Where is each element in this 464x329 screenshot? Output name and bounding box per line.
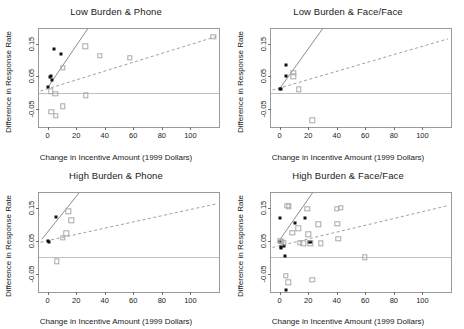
y-tick-label: 0.15 (258, 195, 268, 221)
data-point (293, 221, 296, 224)
y-tick-label: 0.15 (26, 31, 36, 57)
y-tick-label-text: 0.05 (259, 234, 268, 249)
y-tick-label-text: 0.15 (259, 201, 268, 216)
solid-fit (280, 29, 323, 89)
x-tick-label: 0 (277, 296, 281, 305)
y-tick-label-text: 0.05 (27, 69, 36, 84)
x-tick-mark (337, 292, 338, 295)
y-axis-label: Difference in Response Rate (2, 0, 14, 164)
y-tick-label: 0.05 (258, 63, 268, 89)
x-axis-label: Change in Incentive Amount (1999 Dollars… (0, 317, 232, 326)
fit-lines-layer (271, 29, 451, 127)
data-point (305, 232, 310, 237)
x-tick-label: 80 (390, 296, 398, 305)
x-tick-mark (76, 292, 77, 295)
y-axis-label-text: Difference in Response Rate (4, 195, 13, 297)
data-point (60, 104, 65, 109)
x-tick-mark (280, 127, 281, 130)
x-axis-label: Change in Incentive Amount (1999 Dollars… (232, 153, 464, 162)
y-tick-label: 0.05 (258, 228, 268, 254)
y-tick-label-text: 0.15 (27, 201, 36, 216)
x-tick-label: 60 (129, 296, 137, 305)
x-tick-mark (133, 127, 134, 130)
chart-panel: High Burden & Face/FaceDifference in Res… (232, 164, 464, 328)
data-point (68, 218, 73, 223)
data-point (53, 113, 58, 118)
x-tick-label: 100 (184, 296, 197, 305)
panel-title: Low Burden & Phone (0, 6, 232, 17)
x-tick-mark (365, 292, 366, 295)
data-point (63, 231, 68, 236)
plot-area: 0.150.05-0.05020406080100 (38, 28, 220, 128)
panel-title: High Burden & Face/Face (232, 170, 464, 181)
x-tick-label: 80 (390, 131, 398, 140)
x-tick-mark (337, 127, 338, 130)
y-tick-label: -0.05 (26, 96, 36, 122)
data-point (290, 230, 295, 235)
y-axis-label: Difference in Response Rate (2, 164, 14, 328)
y-axis-label: Difference in Response Rate (234, 164, 246, 328)
x-tick-mark (308, 127, 309, 130)
data-point (310, 118, 315, 123)
data-point (53, 47, 56, 50)
y-tick-label-text: 0.15 (27, 36, 36, 51)
x-tick-label: 40 (333, 131, 341, 140)
chart-panel: High Burden & PhoneDifference in Respons… (0, 164, 232, 328)
data-point (279, 216, 282, 219)
y-tick-label-text: -0.05 (27, 265, 36, 282)
data-point (83, 44, 88, 49)
data-point (308, 241, 313, 246)
x-tick-label: 20 (304, 296, 312, 305)
data-point (54, 259, 59, 264)
y-tick-label-text: -0.05 (259, 100, 268, 117)
data-point (280, 88, 283, 91)
data-point (60, 65, 65, 70)
x-tick-label: 40 (101, 131, 109, 140)
data-point (53, 91, 58, 96)
data-point (291, 74, 296, 79)
data-point (66, 208, 71, 213)
x-axis-label: Change in Incentive Amount (1999 Dollars… (0, 153, 232, 162)
plot-area: 0.150.05-0.05020406080100 (270, 28, 452, 128)
x-tick-label: 60 (129, 131, 137, 140)
data-point (335, 236, 340, 241)
x-tick-label: 100 (184, 131, 197, 140)
x-tick-mark (76, 127, 77, 130)
data-point (127, 55, 132, 60)
y-axis-label-text: Difference in Response Rate (4, 31, 13, 133)
y-tick-label-text: 0.05 (27, 234, 36, 249)
fit-lines-layer (39, 29, 219, 127)
data-point (284, 255, 287, 258)
x-tick-label: 80 (158, 296, 166, 305)
y-tick-label: -0.05 (258, 261, 268, 287)
x-tick-mark (365, 127, 366, 130)
data-point (318, 240, 323, 245)
dashed-fit (272, 39, 448, 90)
x-tick-label: 100 (416, 131, 429, 140)
chart-panel: Low Burden & Face/FaceDifference in Resp… (232, 0, 464, 164)
x-tick-label: 60 (361, 296, 369, 305)
y-tick-label: 0.15 (26, 195, 36, 221)
x-tick-mark (394, 292, 395, 295)
chart-panel: Low Burden & PhoneDifference in Response… (0, 0, 232, 164)
data-point (310, 277, 315, 282)
x-tick-mark (190, 127, 191, 130)
data-point (55, 216, 58, 219)
x-tick-mark (280, 292, 281, 295)
data-point (50, 74, 53, 77)
y-tick-label: 0.05 (26, 228, 36, 254)
y-tick-label-text: 0.05 (259, 69, 268, 84)
y-tick-label: 0.15 (258, 31, 268, 57)
x-tick-mark (422, 292, 423, 295)
data-point (284, 74, 287, 77)
solid-fit (42, 193, 79, 239)
x-tick-mark (133, 292, 134, 295)
data-point (48, 240, 51, 243)
data-point (300, 240, 305, 245)
data-point (362, 255, 367, 260)
x-tick-mark (422, 127, 423, 130)
x-tick-label: 80 (158, 131, 166, 140)
x-tick-label: 20 (72, 296, 80, 305)
data-point (284, 288, 287, 291)
data-point (97, 53, 102, 58)
